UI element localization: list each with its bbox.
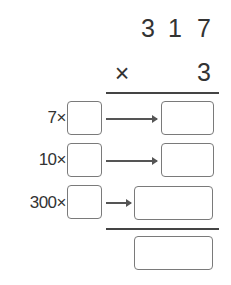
multiply-operator: × — [110, 61, 134, 86]
total-answer-input-box[interactable] — [134, 236, 213, 270]
row-1-arrow-icon — [106, 118, 157, 120]
row-1-label: 7× — [0, 108, 66, 128]
multiplier-digit: 3 — [192, 60, 216, 85]
multiplicand-digit-tens: 1 — [163, 16, 187, 41]
multiplicand-digit-ones: 7 — [192, 16, 216, 41]
row-2-label: 10× — [0, 150, 66, 170]
row-3-product-input-box[interactable] — [134, 186, 213, 220]
top-divider-line — [106, 92, 219, 94]
row-1-product-input-box[interactable] — [161, 101, 214, 135]
multiplicand-digit-hundreds: 3 — [136, 16, 160, 41]
bottom-divider-line — [106, 228, 219, 230]
row-3-label: 300× — [0, 193, 66, 213]
row-2-product-input-box[interactable] — [161, 143, 214, 177]
row-3-factor-input-box[interactable] — [67, 185, 102, 219]
row-1-factor-input-box[interactable] — [67, 101, 102, 135]
row-2-arrow-icon — [106, 160, 157, 162]
row-2-factor-input-box[interactable] — [67, 143, 102, 177]
row-3-arrow-icon — [106, 202, 131, 204]
